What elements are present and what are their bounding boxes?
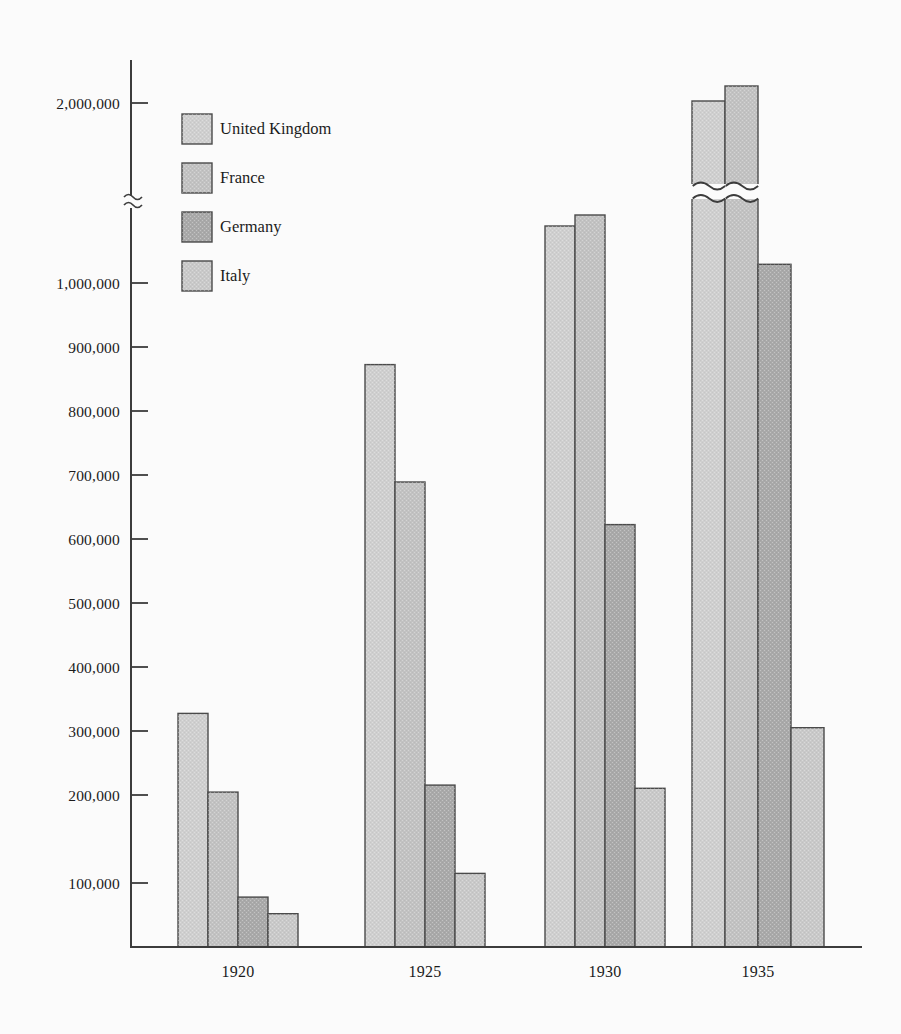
bar-texture <box>178 713 208 947</box>
legend-label-france: France <box>220 168 265 187</box>
y-tick-label-1000000: 1,000,000 <box>56 275 120 292</box>
legend-label-italy: Italy <box>220 266 251 285</box>
y-tick-label-300000: 300,000 <box>68 723 120 740</box>
bar-texture <box>425 785 455 947</box>
y-tick-label-100000: 100,000 <box>68 875 120 892</box>
bar-chart-figure: 2,000,000 1,000,000 900,000 800,000 700,… <box>0 0 901 1034</box>
legend-label-united-kingdom: United Kingdom <box>220 119 332 138</box>
y-tick-label-600000: 600,000 <box>68 531 120 548</box>
x-tick-label-1925: 1925 <box>409 963 442 980</box>
bar-texture <box>758 264 791 947</box>
y-tick-label-2000000: 2,000,000 <box>56 95 120 112</box>
bar-texture <box>395 482 425 947</box>
bar-texture <box>208 792 238 947</box>
x-tick-label-1935: 1935 <box>742 963 775 980</box>
y-tick-label-700000: 700,000 <box>68 467 120 484</box>
bar-texture <box>575 215 605 947</box>
bar-texture <box>268 914 298 947</box>
legend-swatch-texture <box>182 163 212 193</box>
y-tick-label-900000: 900,000 <box>68 339 120 356</box>
y-tick-label-200000: 200,000 <box>68 787 120 804</box>
legend-swatch-texture <box>182 261 212 291</box>
bar-texture <box>692 101 725 947</box>
bar-texture <box>455 873 485 947</box>
legend-swatch-texture <box>182 212 212 242</box>
x-tick-label-1920: 1920 <box>222 963 255 980</box>
legend-label-germany: Germany <box>220 217 282 236</box>
y-tick-label-800000: 800,000 <box>68 403 120 420</box>
x-tick-label-1930: 1930 <box>589 963 622 980</box>
chart-canvas: 2,000,000 1,000,000 900,000 800,000 700,… <box>0 0 901 1034</box>
bar-texture <box>725 86 758 947</box>
bar-texture <box>605 525 635 947</box>
bar-texture <box>635 788 665 947</box>
y-tick-label-400000: 400,000 <box>68 659 120 676</box>
bar-texture <box>365 365 395 947</box>
bar-texture <box>791 728 824 947</box>
bar-texture <box>238 897 268 947</box>
y-tick-label-500000: 500,000 <box>68 595 120 612</box>
legend-swatch-texture <box>182 114 212 144</box>
bar-texture <box>545 226 575 947</box>
